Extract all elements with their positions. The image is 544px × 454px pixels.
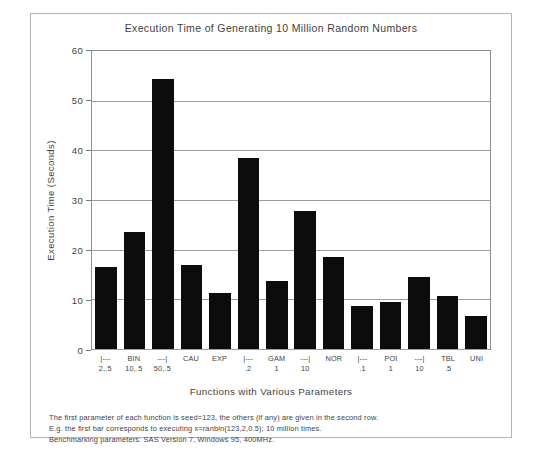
y-tick-mark [86,150,91,151]
gridline [92,349,490,350]
x-tick-label-top: EXP [205,354,234,364]
x-tick-label: ---|10 [405,354,434,373]
y-tick-label: 50 [72,95,83,106]
chart-title: Execution Time of Generating 10 Million … [31,22,511,34]
footnote: The first parameter of each function is … [49,412,501,445]
x-tick-label: |---.2 [234,354,263,373]
bar-slot [433,51,461,349]
bar-slot [206,51,234,349]
y-tick-mark [86,250,91,251]
x-tick-label: |---.1 [348,354,377,373]
x-tick-label-top: ---| [148,354,177,364]
x-tick-label-top: UNI [462,354,491,364]
x-tick-label: BIN10,.5 [120,354,149,373]
bar [209,293,231,349]
x-tick-label-top: |--- [348,354,377,364]
x-tick-label: POI1 [377,354,406,373]
x-tick-label-bottom: .5 [434,364,463,374]
x-tick-label-bottom: 1 [377,364,406,374]
bar-slot [120,51,148,349]
footnote-line-2: E.g. the first bar corresponds to execut… [49,423,501,434]
x-tick-label: UNI [462,354,491,364]
x-tick-label-top: CAU [177,354,206,364]
bar-slot [462,51,490,349]
y-tick-mark [86,300,91,301]
y-axis-title: Execution Time (Seconds) [43,50,57,350]
x-tick-label-bottom: 2,.5 [91,364,120,374]
y-tick-mark [86,200,91,201]
x-tick-label-top: ---| [291,354,320,364]
y-tick-label: 20 [72,245,83,256]
plot-area [91,50,491,350]
y-tick-mark [86,100,91,101]
bar [437,296,459,349]
x-tick-label-bottom: 10 [405,364,434,374]
bar-slot [263,51,291,349]
x-tick-label-top: BIN [120,354,149,364]
y-axis-title-text: Execution Time (Seconds) [45,140,56,260]
bar [294,211,316,349]
bar [465,316,487,349]
y-tick-mark [86,350,91,351]
x-tick-label-top: |--- [234,354,263,364]
x-tick-label: ---|50,.5 [148,354,177,373]
x-tick-label-bottom: 1 [262,364,291,374]
plot-wrapper: 0102030405060 [91,50,491,350]
x-tick-label: TBL.5 [434,354,463,373]
x-tick-label-top: |--- [91,354,120,364]
bar [124,232,146,349]
x-tick-label-bottom: 10,.5 [120,364,149,374]
x-tick-label-top: NOR [320,354,349,364]
bar [95,267,117,349]
bar-slot [348,51,376,349]
y-tick-label: 10 [72,295,83,306]
x-tick-label-bottom: .1 [348,364,377,374]
x-tick-label-top: GAM [262,354,291,364]
bar-slot [291,51,319,349]
x-tick-label-top: TBL [434,354,463,364]
chart-figure: Execution Time of Generating 10 Million … [30,13,512,438]
bar-slot [177,51,205,349]
x-tick-label-bottom: 10 [291,364,320,374]
x-tick-label: CAU [177,354,206,364]
bar [181,265,203,349]
bar-slot [319,51,347,349]
x-tick-label-bottom: 50,.5 [148,364,177,374]
x-tick-label: ---|10 [291,354,320,373]
footnote-line-3: Benchmarking parameters: SAS Version 7, … [49,434,501,445]
x-tick-label-top: POI [377,354,406,364]
y-tick-label: 60 [72,45,83,56]
bar [152,79,174,349]
y-tick-label: 0 [77,345,83,356]
bar [266,281,288,349]
bar [238,158,260,349]
bar-series [92,51,490,349]
y-tick-mark [86,50,91,51]
x-tick-label: GAM1 [262,354,291,373]
x-axis-tick-labels: |---2,.5BIN10,.5---|50,.5CAUEXP|---.2GAM… [91,354,491,380]
footnote-line-1: The first parameter of each function is … [49,412,501,423]
y-tick-label: 40 [72,145,83,156]
x-tick-label: NOR [320,354,349,364]
y-tick-label: 30 [72,195,83,206]
bar-slot [405,51,433,349]
x-axis-title: Functions with Various Parameters [31,386,511,397]
x-tick-label: EXP [205,354,234,364]
bar-slot [234,51,262,349]
bar-slot [376,51,404,349]
x-tick-label-top: ---| [405,354,434,364]
bar [323,257,345,349]
bar [408,277,430,349]
bar-slot [92,51,120,349]
bar [380,302,402,349]
x-tick-label-bottom: .2 [234,364,263,374]
bar [351,306,373,349]
x-tick-label: |---2,.5 [91,354,120,373]
bar-slot [149,51,177,349]
